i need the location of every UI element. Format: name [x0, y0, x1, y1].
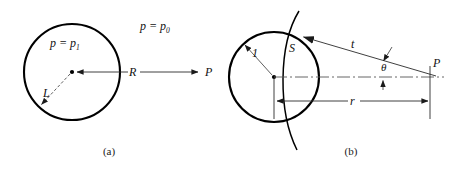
surface-label-s: S	[289, 41, 295, 55]
inside-pressure-label: p = p1	[49, 36, 80, 52]
distance-label-a: R	[128, 65, 137, 79]
point-label-b: P	[432, 56, 441, 70]
panel-b: 1 S t θ r P (b)	[229, 11, 444, 158]
outside-pressure-label: p = p0	[139, 19, 170, 35]
figure-container: p = p0 p = p1 L R P (a)	[0, 0, 461, 172]
caption-a: (a)	[103, 145, 116, 158]
distance-label-r: r	[350, 94, 355, 108]
tangent-label-t: t	[351, 37, 355, 51]
surface-arc-s	[283, 11, 299, 150]
tangent-line-t	[304, 37, 437, 76]
unit-radius-label: 1	[252, 46, 258, 60]
angle-label-theta: θ	[381, 61, 387, 73]
point-label-a: P	[204, 65, 213, 79]
panel-a: p = p0 p = p1 L R P (a)	[24, 19, 213, 158]
caption-b: (b)	[345, 145, 358, 158]
physics-diagram: p = p0 p = p1 L R P (a)	[0, 0, 461, 172]
angle-arrow-upper	[384, 47, 393, 61]
radius-label-a: L	[42, 86, 50, 100]
unit-radius-leader-line	[245, 45, 272, 75]
sphere-center-dot-a	[70, 70, 74, 74]
